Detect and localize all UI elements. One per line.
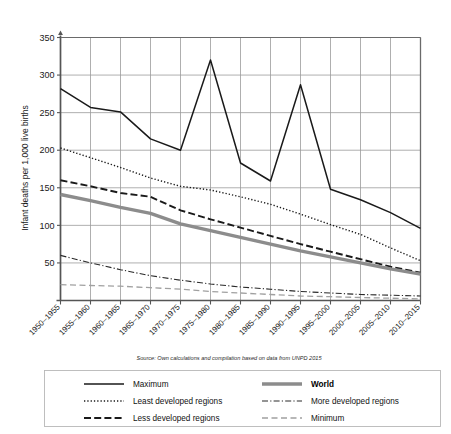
y-tick-label: 200 xyxy=(39,145,54,155)
y-axis-label: Infant deaths per 1,000 live births xyxy=(20,105,30,231)
chart-legend: MaximumWorldLeast developed regionsMore … xyxy=(84,380,399,423)
y-tick-label: 300 xyxy=(39,70,54,80)
legend-label-minimum: Minimum xyxy=(311,414,344,423)
legend-label-world: World xyxy=(311,380,334,389)
legend-label-less-developed-regions: Less developed regions xyxy=(133,414,220,423)
y-tick-label: 250 xyxy=(39,108,54,118)
y-axis-ticks: 35030025020015010050 xyxy=(39,33,60,268)
y-tick-label: 50 xyxy=(44,258,54,268)
y-tick-label: 150 xyxy=(39,183,54,193)
source-note: Source: Own calculations and compilation… xyxy=(136,355,322,361)
legend-label-maximum: Maximum xyxy=(133,380,169,389)
y-tick-label: 350 xyxy=(39,33,54,43)
legend-label-least-developed-regions: Least developed regions xyxy=(133,397,222,406)
source-caption: Source: Own calculations and compilation… xyxy=(136,355,322,361)
y-tick-label: 100 xyxy=(39,221,54,231)
chart-canvas: 35030025020015010050 1950–19551955–19601… xyxy=(0,0,451,434)
infant-mortality-chart: 35030025020015010050 1950–19551955–19601… xyxy=(0,0,451,434)
x-tick-label: 2010–2015 xyxy=(387,302,422,337)
y-axis-title: Infant deaths per 1,000 live births xyxy=(20,105,30,231)
x-axis-ticks: 1950–19551955–19601960–19651965–19701970… xyxy=(27,301,422,338)
y-axis-arrow xyxy=(58,31,63,36)
legend-label-more-developed-regions: More developed regions xyxy=(311,397,399,406)
